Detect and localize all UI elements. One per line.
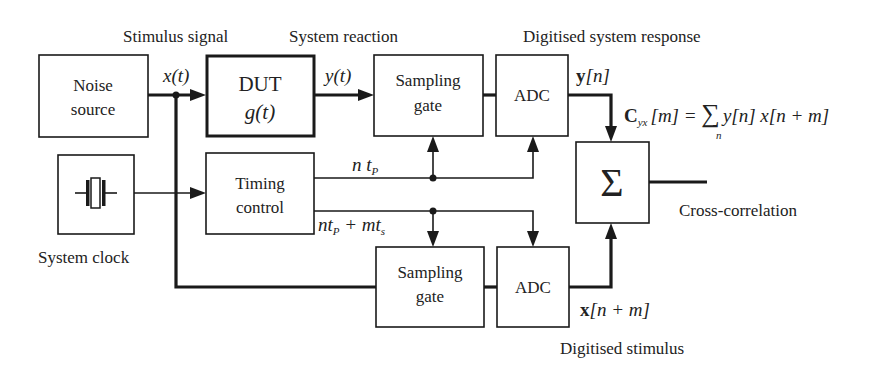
adc-top-block: ADC (496, 55, 568, 136)
noise-source-block: Noise source (39, 55, 148, 137)
y-n-wire (568, 95, 611, 134)
sampling-gate-bottom-block: Sampling gate (376, 247, 484, 327)
system-clock-block (58, 155, 134, 234)
sigma-icon: Σ (600, 160, 623, 205)
timing-control-line2: control (236, 198, 284, 217)
stimulus-signal-label: Stimulus signal (123, 27, 229, 46)
arrow-into-summer-bottom (605, 223, 617, 239)
n-tp-label: n tP (352, 154, 379, 177)
ntp-mts-label: ntP + mts (318, 214, 385, 237)
sum-index-label: n (716, 129, 722, 141)
arrow-into-sampling-gate-top (358, 89, 374, 101)
noise-source-line2: source (71, 100, 115, 119)
sampling-gate-bottom-line2: gate (416, 287, 444, 306)
noise-source-line1: Noise (73, 76, 113, 95)
sampling-gate-bottom-line1: Sampling (397, 263, 463, 282)
arrow-into-sampling-gate-bottom (427, 231, 439, 247)
digitised-stimulus-label: Digitised stimulus (560, 339, 684, 358)
arrow-into-dut (190, 89, 206, 101)
dut-block: DUT g(t) (207, 56, 314, 136)
x-t-label: x(t) (162, 65, 189, 87)
cross-correlation-block-diagram: Stimulus signal System reaction Digitise… (0, 0, 877, 371)
summer-block: Σ (576, 142, 649, 223)
system-clock-label: System clock (38, 248, 130, 267)
arrow-into-sampling-gate-top-from-timing (427, 136, 439, 152)
y-t-label: y(t) (323, 65, 351, 87)
sampling-gate-top-line2: gate (414, 96, 442, 115)
timing-control-line1: Timing (235, 174, 285, 193)
dut-transfer-function: g(t) (245, 100, 275, 124)
adc-bottom-block: ADC (497, 247, 569, 327)
x-nm-label: x[n + m] (580, 299, 650, 320)
n-tp-junction-dot (430, 175, 437, 182)
arrow-into-adc-bottom (527, 231, 539, 247)
x-nm-wire (569, 231, 611, 287)
y-n-label: y[n] (576, 65, 610, 86)
arrow-into-adc-top-from-timing (527, 136, 539, 152)
sampling-gate-top-block: Sampling gate (374, 55, 483, 136)
timing-control-block: Timing control (206, 153, 314, 234)
arrow-into-summer-top (605, 126, 617, 142)
dut-label: DUT (238, 72, 281, 96)
system-reaction-label: System reaction (289, 27, 399, 46)
cross-correlation-equation: Cyx[m] = ∑y[n] x[n + m] (624, 99, 829, 128)
cross-correlation-label: Cross-correlation (679, 201, 798, 220)
digitised-system-response-label: Digitised system response (523, 27, 701, 46)
n-tp-wire (314, 144, 533, 178)
arrow-into-timing-control (190, 187, 206, 199)
adc-top-label: ADC (514, 86, 550, 105)
sampling-gate-top-line1: Sampling (395, 71, 461, 90)
adc-bottom-label: ADC (515, 278, 551, 297)
ntp-mts-junction-dot (430, 208, 437, 215)
